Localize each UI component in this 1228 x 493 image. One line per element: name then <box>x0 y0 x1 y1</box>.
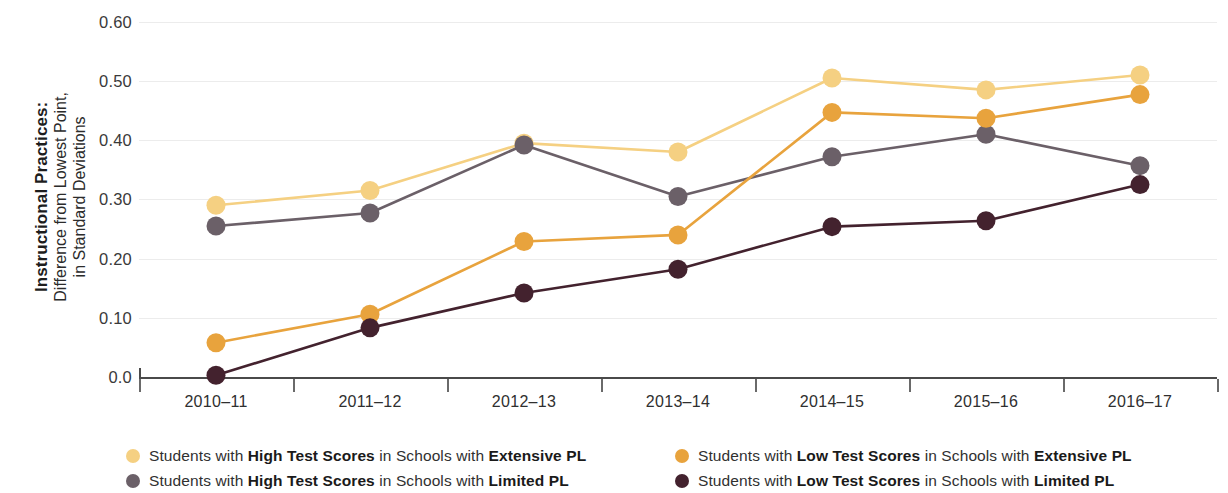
legend-swatch-icon <box>126 474 140 488</box>
legend-swatch-icon <box>126 449 140 463</box>
legend-column-right: Students with Low Test Scores in Schools… <box>675 443 1132 493</box>
legend-item-label: Students with High Test Scores in School… <box>149 447 586 465</box>
x-axis-tick <box>755 379 757 392</box>
y-axis-line <box>139 368 141 379</box>
y-axis-tick-labels: 0.600.500.400.300.200.100.0 <box>78 0 132 393</box>
x-axis-tick <box>1063 379 1065 392</box>
y-tick-label: 0.60 <box>78 12 132 31</box>
x-tick-label: 2016–17 <box>1108 393 1172 411</box>
legend-item-low-extensive[interactable]: Students with Low Test Scores in Schools… <box>675 443 1132 468</box>
legend-swatch-icon <box>675 449 689 463</box>
legend-item-label: Students with High Test Scores in School… <box>149 472 569 490</box>
gridline <box>139 199 1217 200</box>
legend-swatch-icon <box>675 474 689 488</box>
y-tick-label: 0.40 <box>78 131 132 150</box>
legend-item-label: Students with Low Test Scores in Schools… <box>698 472 1114 490</box>
legend-item-label: Students with Low Test Scores in Schools… <box>698 447 1132 465</box>
x-axis-tick <box>909 379 911 392</box>
x-axis-line <box>139 377 1217 379</box>
x-axis-tick <box>293 379 295 392</box>
y-tick-label: 0.0 <box>78 368 132 387</box>
legend-item-high-extensive[interactable]: Students with High Test Scores in School… <box>126 443 586 468</box>
x-axis-tick <box>601 379 603 392</box>
gridline <box>139 318 1217 319</box>
gridline <box>139 259 1217 260</box>
x-axis-tick <box>447 379 449 392</box>
gridline <box>139 140 1217 141</box>
gridline <box>139 81 1217 82</box>
x-axis-tick <box>1217 379 1219 392</box>
x-tick-label: 2011–12 <box>338 393 401 411</box>
y-tick-label: 0.30 <box>78 190 132 209</box>
x-tick-label: 2010–11 <box>184 393 247 411</box>
line-chart: Instructional Practices: Difference from… <box>0 0 1228 493</box>
x-tick-label: 2013–14 <box>646 393 710 411</box>
x-tick-label: 2014–15 <box>800 393 864 411</box>
legend-item-high-limited[interactable]: Students with High Test Scores in School… <box>126 468 586 493</box>
y-axis-title-line1: Difference from Lowest Point, <box>52 2 71 392</box>
x-tick-label: 2012–13 <box>492 393 556 411</box>
legend-column-left: Students with High Test Scores in School… <box>126 443 586 493</box>
legend-item-low-limited[interactable]: Students with Low Test Scores in Schools… <box>675 468 1132 493</box>
y-tick-label: 0.20 <box>78 249 132 268</box>
y-tick-label: 0.50 <box>78 72 132 91</box>
x-axis-tick <box>139 379 141 392</box>
y-axis-title-bold: Instructional Practices: <box>32 2 52 392</box>
legend: Students with High Test Scores in School… <box>126 443 1228 493</box>
y-tick-label: 0.10 <box>78 308 132 327</box>
x-tick-label: 2015–16 <box>954 393 1018 411</box>
plot-area <box>139 14 1217 378</box>
gridline <box>139 22 1217 23</box>
